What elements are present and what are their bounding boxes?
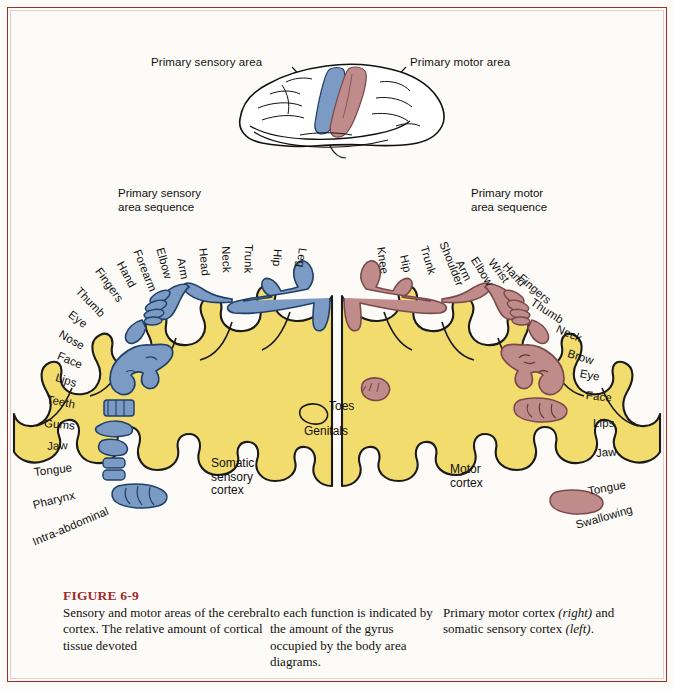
figure-caption: FIGURE 6-9 Sensory and motor areas of th… <box>63 588 643 670</box>
homunculus-diagram <box>0 0 674 580</box>
sensory-body-pharynx-abdomen <box>112 484 167 508</box>
motor-label-lips: Lips <box>593 417 615 429</box>
somatic-sensory-cortex-ribbon <box>14 286 332 486</box>
motor-cortex-label-line2: cortex <box>450 477 483 491</box>
motor-toes-label: Toes <box>329 400 354 414</box>
sensory-label-neck: Neck <box>220 246 233 273</box>
sensory-genitals-region <box>300 404 328 424</box>
somatic-label-line1: Somatic <box>211 457 254 471</box>
motor-label-jaw: Jaw <box>596 446 618 459</box>
sensory-label-trunk: Trunk <box>242 244 255 274</box>
sensory-body-thumb <box>125 320 146 343</box>
motor-toes-region <box>362 378 390 401</box>
sensory-label-hip: Hip <box>271 249 284 267</box>
figure-page: Primary sensory area Primary motor area … <box>0 0 674 689</box>
sensory-body-arm <box>184 283 232 303</box>
sensory-label-leg: Leg <box>295 247 309 268</box>
motor-body-thumb <box>528 320 549 343</box>
caption-column-2: to each function is indicated by the amo… <box>270 605 443 670</box>
sensory-genitals-label: Genitals <box>304 425 348 439</box>
caption-c3-italic2: (left) <box>565 621 590 636</box>
motor-label-face: Face <box>585 389 612 404</box>
caption-c3-part3: . <box>591 621 594 636</box>
sensory-label-jaw: Jaw <box>47 439 68 452</box>
caption-c3-part1: Primary motor cortex <box>443 605 558 620</box>
somatic-sensory-cortex-label: Somatic sensory cortex <box>211 457 254 498</box>
caption-column-3: Primary motor cortex (right) and somatic… <box>443 605 643 670</box>
motor-cortex-label: Motor cortex <box>450 463 483 490</box>
motor-body-arm <box>442 283 490 303</box>
cortex-homunculus-svg <box>0 0 674 580</box>
caption-columns: Sensory and motor areas of the cerebral … <box>63 605 643 670</box>
figure-number: FIGURE 6-9 <box>63 588 643 604</box>
somatic-label-line2: sensory <box>211 471 254 485</box>
somatic-label-line3: cortex <box>211 484 254 498</box>
caption-column-1: Sensory and motor areas of the cerebral … <box>63 605 270 670</box>
caption-c3-italic1: (right) <box>558 605 592 620</box>
motor-cortex-label-line1: Motor <box>450 463 483 477</box>
